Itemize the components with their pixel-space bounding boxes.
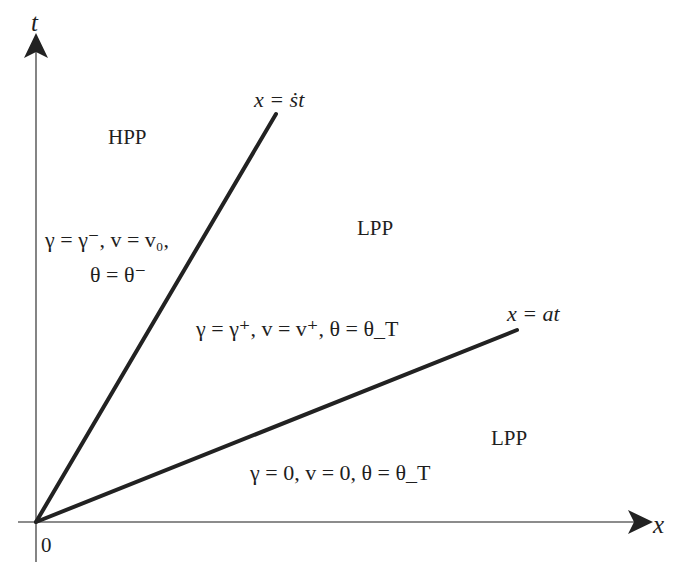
x-axis-label: x [653,512,664,537]
hpp-conditions-line2: θ = θ⁻ [90,264,146,286]
line-label-sdot-t: x = ṡt [254,89,304,111]
region-label-hpp: HPP [108,127,147,148]
region-label-lpp-lower: LPP [491,428,527,449]
origin-label: 0 [41,535,52,556]
region-label-lpp-middle: LPP [357,218,393,239]
diagram-canvas [0,0,682,575]
lpp-lower-conditions: γ = 0, v = 0, θ = θ_T [250,462,430,484]
line-label-at: x = at [507,303,560,325]
t-axis-label: t [31,10,38,35]
lpp-middle-conditions: γ = γ⁺, v = v⁺, θ = θ_T [196,318,398,340]
line-x-equals-at [36,330,517,522]
hpp-conditions-line1: γ = γ⁻, v = v₀, [45,229,169,251]
